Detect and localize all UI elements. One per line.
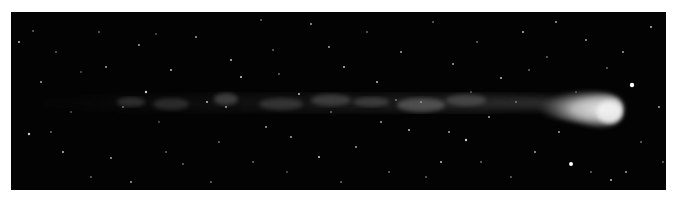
star [606,67,608,69]
star [170,69,172,71]
star [210,181,212,183]
star [366,31,368,33]
star [240,76,242,78]
star [195,36,197,38]
star [218,141,220,143]
star [32,30,34,32]
star [28,133,30,135]
star [515,101,517,103]
star [278,73,280,75]
star [260,19,262,21]
star [145,91,147,93]
star [182,163,184,165]
star [376,81,378,83]
star [658,106,660,108]
star [343,66,345,68]
comet-head [511,91,624,127]
star [558,131,560,133]
star [448,131,450,133]
tail-knot [259,98,303,110]
star [330,111,332,113]
star [662,161,664,163]
star [555,21,557,23]
tail-knot [446,94,486,106]
star [630,83,634,87]
star [640,141,642,143]
star [328,46,330,48]
star [290,136,292,138]
star [40,81,42,83]
star [625,171,627,173]
star [225,106,227,108]
star [138,44,140,46]
star [206,101,208,103]
star [355,146,357,148]
star [122,106,124,108]
star [318,156,320,158]
star [105,66,107,68]
star [569,162,573,166]
star [298,93,300,95]
star [590,171,592,173]
star [158,121,159,122]
star [500,77,502,79]
star [18,41,20,43]
tail-knot [214,93,238,105]
star [110,157,112,159]
star [510,176,512,178]
star [488,116,490,118]
star [388,171,390,173]
star [622,51,624,53]
star [452,63,454,65]
star [98,31,100,33]
tail-knot [397,98,445,112]
star [470,91,471,92]
comet-photograph [11,12,666,190]
star [650,26,652,28]
star [130,181,132,183]
star [432,21,434,23]
star [165,151,167,153]
star [310,23,312,25]
star [546,56,548,58]
star [408,129,410,131]
tail-knot [311,94,351,106]
star [395,99,397,101]
star [272,49,274,51]
star [286,171,287,172]
star [440,161,442,163]
tail-knot [353,97,389,107]
star [534,151,536,153]
star [585,39,587,41]
star [230,59,232,61]
star [62,151,64,153]
star [70,111,71,112]
star [400,51,402,53]
tail-knot [117,97,145,107]
star [155,33,156,34]
star [80,71,81,72]
star-field [11,12,666,190]
star [476,41,478,43]
star [610,179,612,181]
star [480,161,482,163]
star [522,31,524,33]
star [465,139,467,141]
star [50,131,52,133]
star [528,69,530,71]
star [90,176,92,178]
star [380,121,382,123]
star [425,176,427,178]
star [420,101,422,103]
star [55,51,57,53]
star [252,161,254,163]
tail-knot [153,98,189,110]
star [340,181,342,183]
star [265,126,267,128]
